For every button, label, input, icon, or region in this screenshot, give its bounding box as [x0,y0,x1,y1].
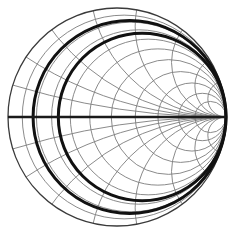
reactance-arc [8,117,231,232]
reactance-arc [135,117,231,232]
smith-chart-canvas [0,0,231,232]
smith-chart-figure [0,0,231,232]
reactance-arc [135,0,231,117]
